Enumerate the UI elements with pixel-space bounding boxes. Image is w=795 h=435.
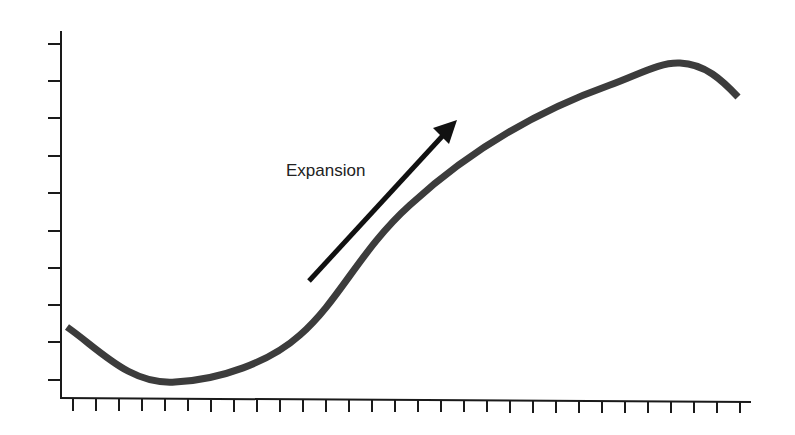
expansion-arrow-icon (309, 120, 457, 281)
x-axis (60, 398, 751, 413)
cycle-curve (67, 63, 738, 382)
y-axis (48, 31, 61, 398)
cycle-diagram (0, 0, 795, 435)
expansion-label: Expansion (286, 161, 365, 181)
